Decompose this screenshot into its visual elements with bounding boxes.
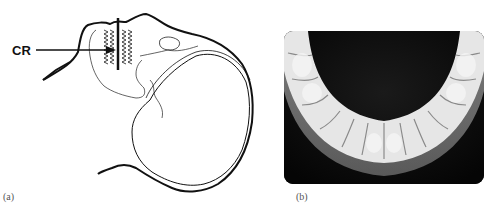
caption-b: (b) (296, 191, 308, 202)
occlusal-xray-image (284, 31, 484, 184)
caption-a: (a) (3, 191, 14, 202)
panel-b-radiograph: (b) (270, 0, 493, 209)
cr-label: CR (12, 43, 31, 58)
arrow-head-icon (106, 46, 116, 54)
skull-line-drawing (0, 0, 260, 209)
panel-a-skull-diagram: CR (a) (0, 0, 260, 209)
